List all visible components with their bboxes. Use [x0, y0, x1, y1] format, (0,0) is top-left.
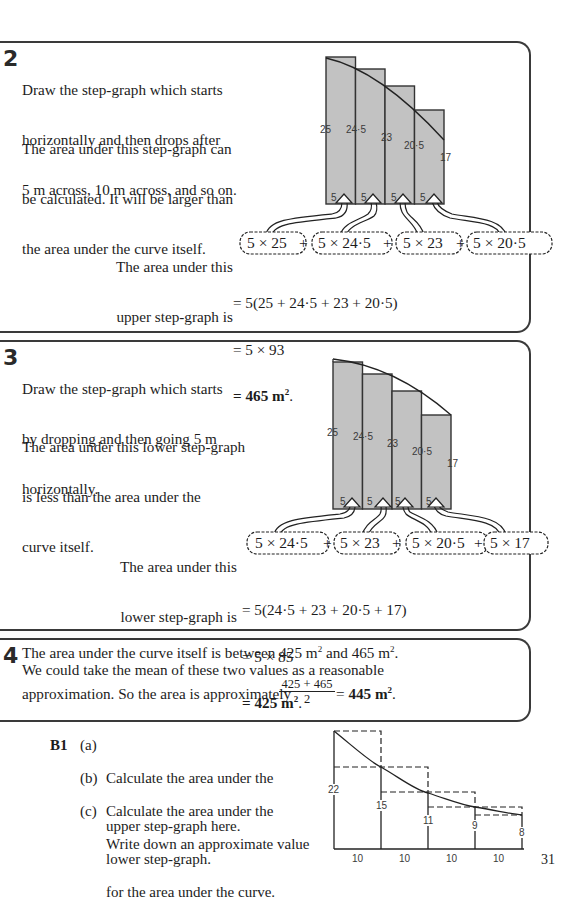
text-line: be calculated. It will be larger than — [22, 191, 233, 208]
page-number: 31 — [541, 852, 555, 868]
section-number-3: 3 — [3, 347, 18, 369]
plus-sign: + — [383, 234, 392, 252]
exercise-width-2: 10 — [399, 853, 410, 864]
period: . — [395, 644, 399, 661]
upper-term-3: 5 × 23 — [403, 234, 443, 252]
upper-term-4: 5 × 20·5 — [473, 234, 526, 252]
lower-term-4: 5 × 17 — [490, 534, 530, 552]
period: . — [392, 685, 396, 702]
section-3-lead: The area under this lower step-graph is — [120, 526, 237, 642]
period: . — [289, 387, 293, 404]
result-value: 445 m — [348, 685, 387, 702]
exercise-height-22: 22 — [328, 784, 339, 795]
upper-step-graph — [326, 57, 444, 204]
exercise-item-a-tag: (a) — [80, 737, 97, 753]
section-number-2: 2 — [3, 48, 18, 70]
upper-width-label-2: 5 — [361, 192, 367, 203]
result-value: = 465 m — [233, 387, 285, 404]
lower-height-label-2: 24·5 — [353, 431, 373, 442]
section-2-lead: The area under this upper step-graph is — [116, 226, 233, 342]
fraction-denominator: 2 — [279, 691, 335, 706]
exercise-item-b-tag: (b) — [80, 770, 98, 786]
exercise-width-1: 10 — [352, 853, 363, 864]
text-line: The area under this step-graph can — [22, 141, 233, 158]
lower-term-2: 5 × 23 — [340, 534, 380, 552]
exercise-height-9: 9 — [472, 820, 478, 831]
upper-height-label-5: 17 — [440, 152, 451, 163]
plus-sign: + — [299, 234, 308, 252]
exercise-label: B1 — [50, 737, 68, 753]
lower-width-label-4: 5 — [426, 496, 432, 507]
text-line: Draw the step-graph which starts — [22, 82, 237, 99]
upper-term-1: 5 × 25 — [247, 234, 287, 252]
exercise-item-c-tag: (c) — [80, 803, 97, 819]
exercise-height-15: 15 — [376, 800, 387, 811]
lower-term-3: 5 × 20·5 — [412, 534, 465, 552]
text-line: for the area under the curve. — [106, 884, 310, 900]
plus-sign: + — [456, 234, 465, 252]
lower-width-label-2: 5 — [367, 496, 373, 507]
plus-sign: + — [392, 534, 401, 552]
equation-line: = 5 × 93 — [233, 342, 398, 358]
lower-height-label-5: 17 — [447, 458, 458, 469]
lower-width-label-3: 5 — [395, 496, 401, 507]
mean-fraction: 425 + 465 2 — [279, 677, 335, 706]
text: and 465 m — [322, 644, 390, 661]
text: The area under the curve itself is betwe… — [22, 644, 318, 661]
text-line: Draw the step-graph which starts — [22, 381, 223, 398]
exercise-height-11: 11 — [423, 815, 433, 826]
equation-result: = 465 m2. — [233, 388, 398, 404]
upper-term-2: 5 × 24·5 — [318, 234, 371, 252]
upper-width-label-1: 5 — [331, 192, 337, 203]
upper-height-label-4: 20·5 — [404, 140, 424, 151]
upper-height-label-2: 24·5 — [346, 124, 366, 135]
lower-width-label-1: 5 — [340, 496, 346, 507]
plus-sign: + — [323, 534, 332, 552]
section-number-4: 4 — [3, 645, 18, 667]
text-line: The area under this lower step-graph — [22, 439, 245, 456]
upper-width-label-3: 5 — [391, 192, 397, 203]
equation-line: = 5(25 + 24·5 + 23 + 20·5) — [233, 295, 398, 311]
section-4-result: = 445 m2. — [336, 686, 396, 703]
exercise-width-3: 10 — [446, 853, 457, 864]
upper-width-label-4: 5 — [420, 192, 426, 203]
section-4-line-1: The area under the curve itself is betwe… — [22, 645, 398, 662]
lower-height-label-1: 25 — [327, 427, 338, 438]
text-line: The area under this — [120, 559, 237, 576]
plus-sign: + — [474, 534, 483, 552]
upper-height-label-3: 23 — [381, 132, 392, 143]
text-line: Write down an approximate value — [106, 836, 310, 852]
text-line: The area under this — [116, 259, 233, 276]
exercise-graph — [334, 731, 524, 849]
upper-height-label-1: 25 — [320, 124, 331, 135]
text-line: upper step-graph is — [116, 309, 233, 326]
exercise-width-4: 10 — [493, 853, 504, 864]
text-line: is less than the area under the — [22, 489, 245, 506]
equation-line: = 5(24·5 + 23 + 20·5 + 17) — [242, 602, 407, 618]
lower-term-1: 5 × 24·5 — [255, 534, 308, 552]
section-4-line-3: approximation. So the area is approximat… — [22, 686, 291, 703]
equals: = — [336, 685, 348, 702]
section-2-working: = 5(25 + 24·5 + 23 + 20·5) = 5 × 93 = 46… — [233, 264, 398, 419]
text-line: lower step-graph is — [120, 609, 237, 626]
lower-height-label-3: 23 — [387, 438, 398, 449]
fraction-numerator: 425 + 465 — [279, 677, 335, 691]
exercise-height-8: 8 — [519, 827, 525, 838]
lower-height-label-4: 20·5 — [412, 446, 432, 457]
exercise-item-c: Write down an approximate value for the … — [106, 803, 310, 901]
